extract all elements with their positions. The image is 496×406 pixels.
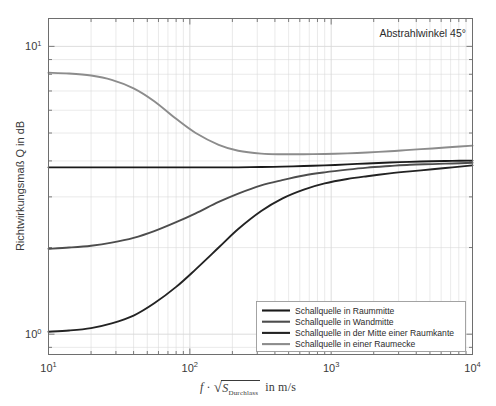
line-chart: 101102103104100101 Abstrahlwinkel 45° Ri… (0, 0, 496, 406)
legend-label-1: Schallquelle in Wandmitte (295, 317, 394, 327)
x-axis-title-unit: in m/s (265, 380, 296, 394)
chart-figure: 101102103104100101 Abstrahlwinkel 45° Ri… (0, 0, 496, 406)
legend-label-0: Schallquelle in Raummitte (295, 306, 395, 316)
legend-label-2: Schallquelle in der Mitte einer Raumkant… (295, 328, 454, 338)
legend-label-3: Schallquelle in einer Raumecke (295, 339, 416, 349)
x-axis-title-dot: · (207, 380, 211, 394)
x-axis-title-radicand: SDurchlass (221, 380, 260, 397)
annotation-abstrahlwinkel: Abstrahlwinkel 45° (380, 27, 467, 39)
x-axis-title-f: f (200, 380, 204, 394)
y-axis-title: Richtwirkungsmaß Q in dB (14, 121, 26, 251)
chart-legend: Schallquelle in RaummitteSchallquelle in… (257, 302, 466, 352)
x-axis-title-subscript: Durchlass (228, 389, 258, 397)
x-axis-title: f·√SDurchlassin m/s (200, 378, 296, 396)
